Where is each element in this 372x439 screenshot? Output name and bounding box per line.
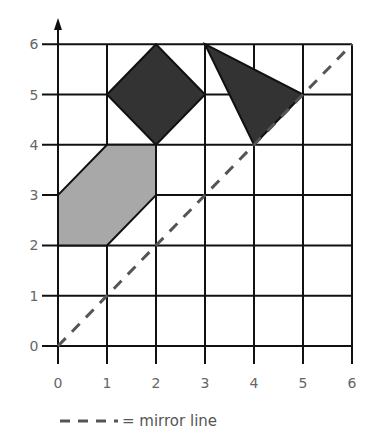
y-tick-label: 0 [30, 338, 39, 354]
y-tick-label: 4 [30, 137, 39, 153]
x-tick-label: 5 [299, 375, 308, 391]
y-tick-label: 5 [30, 87, 39, 103]
square-shape [107, 44, 205, 145]
x-tick-label: 3 [201, 375, 210, 391]
axes [54, 18, 62, 44]
y-axis-arrow-icon [54, 18, 62, 30]
x-tick-label: 6 [348, 375, 357, 391]
y-tick-label: 6 [30, 36, 39, 52]
legend-label: = mirror line [122, 412, 217, 430]
x-tick-label: 1 [103, 375, 112, 391]
reflection-diagram: 01234560123456 = mirror line [0, 0, 372, 439]
legend: = mirror line [60, 412, 217, 430]
x-tick-label: 4 [250, 375, 259, 391]
y-tick-label: 1 [30, 288, 39, 304]
y-tick-label: 2 [30, 237, 39, 253]
x-tick-label: 2 [152, 375, 161, 391]
y-tick-label: 3 [30, 187, 39, 203]
x-tick-label: 0 [54, 375, 63, 391]
hexagon-shape [58, 145, 156, 246]
